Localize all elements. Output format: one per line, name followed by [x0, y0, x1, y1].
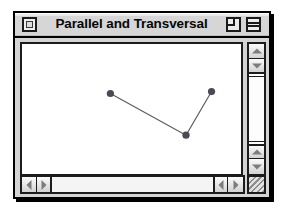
plot-point-2[interactable] [208, 88, 215, 95]
triangle-up-icon [252, 49, 262, 54]
scroll-left-button-end[interactable] [213, 177, 228, 192]
scroll-left-button-start[interactable] [22, 177, 37, 192]
scroll-down-button-top[interactable] [249, 59, 264, 74]
triangle-left-icon [27, 180, 32, 190]
vertical-scrollbar[interactable] [247, 42, 266, 176]
close-box-icon[interactable] [22, 17, 37, 32]
scroll-right-button-start[interactable] [37, 177, 52, 192]
scroll-down-button-bottom[interactable] [249, 159, 264, 174]
triangle-right-icon [41, 180, 46, 190]
triangle-down-icon [252, 164, 262, 169]
plot-polyline [110, 92, 211, 136]
triangle-up-icon [252, 150, 262, 155]
triangle-left-icon [219, 180, 224, 190]
window[interactable]: Parallel and Transversal [13, 11, 271, 199]
scroll-up-button-top[interactable] [249, 44, 264, 59]
triangle-down-icon [252, 63, 262, 68]
plot-point-0[interactable] [107, 90, 114, 97]
drawing-canvas[interactable] [20, 42, 243, 176]
horizontal-scrollbar-track[interactable] [52, 177, 213, 192]
horizontal-scrollbar[interactable] [20, 175, 245, 194]
window-body [15, 38, 269, 197]
vscroll-bottom-buttons [249, 144, 264, 174]
scroll-up-button-bottom[interactable] [249, 144, 264, 159]
grow-box-icon[interactable] [247, 175, 266, 194]
zoom-box-icon[interactable] [226, 17, 241, 32]
windowshade-box-icon[interactable] [246, 17, 261, 32]
window-title-bar[interactable]: Parallel and Transversal [15, 13, 269, 38]
vscroll-top-buttons [249, 44, 264, 74]
triangle-right-icon [233, 180, 238, 190]
scroll-right-button-end[interactable] [228, 177, 243, 192]
line-plot [22, 44, 241, 174]
vertical-scrollbar-track[interactable] [249, 76, 264, 142]
plot-point-1[interactable] [182, 132, 189, 139]
page-title: Parallel and Transversal [37, 17, 226, 33]
